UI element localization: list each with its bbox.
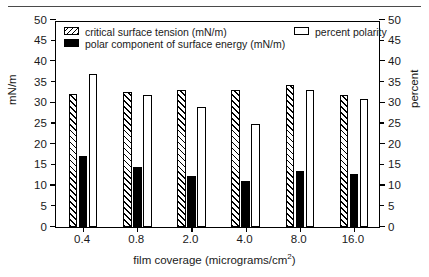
bar [360,99,369,227]
bar [197,107,206,227]
y-axis-left-tick [50,184,56,185]
y-axis-left-tick-label: 5 [41,201,48,213]
bar [231,90,240,227]
y-axis-right-tick-label: 15 [388,159,401,171]
bar [69,94,78,227]
y-axis-right-tick-label: 45 [388,35,401,47]
x-axis-tick [246,227,247,232]
y-axis-left-tick [50,60,56,61]
x-axis-tick [191,227,192,232]
x-axis-tick [354,227,355,232]
x-axis-title-main: film coverage (micrograms/cm [133,254,287,266]
y-axis-left-tick [50,143,56,144]
y-axis-right-tick [379,19,385,20]
legend-item-label: polar component of surface energy (mN/m) [85,38,285,50]
y-axis-left-tick [50,226,56,227]
x-axis-tick [300,227,301,232]
y-axis-right-title: percent [408,70,420,108]
x-axis-title: film coverage (micrograms/cm2) [0,252,429,266]
white-swatch-icon [294,27,309,35]
bar [177,90,186,227]
bar [306,90,315,227]
y-axis-left-tick-label: 20 [34,139,47,151]
x-axis-tick [83,227,84,232]
y-axis-right-tick-label: 30 [388,97,401,109]
bar [187,176,196,227]
bar [89,74,98,227]
bar [79,156,88,227]
y-axis-left-tick [51,164,56,165]
x-axis-tick-label: 16.0 [333,233,373,245]
y-axis-right-tick [379,102,385,103]
y-axis-right-tick [379,205,384,206]
y-axis-right-tick-label: 25 [388,118,401,130]
y-axis-left-tick [51,81,56,82]
y-axis-right-tick-label: 20 [388,139,401,151]
plot-area: 05101520253035404550 0510152025303540455… [55,21,380,228]
x-axis-tick-label: 8.0 [279,233,319,245]
y-axis-left-tick [51,205,56,206]
x-axis-title-tail: ) [292,254,296,266]
y-axis-right-tick-label: 50 [388,15,401,27]
y-axis-right-tick-label: 5 [388,201,395,213]
y-axis-left-tick-label: 35 [34,77,47,89]
legend-item-label: critical surface tension (mN/m) [85,26,227,38]
y-axis-right-tick [379,60,385,61]
bar [123,92,132,227]
y-axis-right-tick-label: 0 [388,222,395,234]
y-axis-left-title: mN/m [6,74,18,105]
black-swatch-icon [64,39,79,47]
y-axis-right-tick [379,40,384,41]
y-axis-right-tick-label: 35 [388,77,401,89]
bar [133,167,142,227]
y-axis-right-tick [379,184,385,185]
y-axis-left-tick [51,40,56,41]
bar [286,85,295,227]
y-axis-right-tick-label: 10 [388,180,401,192]
y-axis-right-tick [379,81,384,82]
y-axis-left-tick-label: 45 [34,35,47,47]
x-axis-tick-label: 0.8 [116,233,156,245]
y-axis-left-tick-label: 40 [34,56,47,68]
bar [350,174,359,227]
hatched-swatch-icon [64,27,79,35]
y-axis-right-tick [379,122,384,123]
chart-figure: mN/m percent film coverage (micrograms/c… [0,0,429,277]
y-axis-right-tick [379,143,385,144]
bar [241,181,250,227]
y-axis-left-tick [50,19,56,20]
y-axis-left-tick-label: 25 [34,118,47,130]
y-axis-right-tick-label: 40 [388,56,401,68]
y-axis-left-tick-label: 30 [34,97,47,109]
x-axis-tick-label: 2.0 [170,233,210,245]
x-axis-tick [137,227,138,232]
y-axis-right-tick [379,226,385,227]
y-axis-right-tick [379,164,384,165]
bar [143,95,152,227]
bar [340,95,349,227]
y-axis-left-tick-label: 10 [34,180,47,192]
x-axis-tick-label: 4.0 [225,233,265,245]
x-axis-tick-label: 0.4 [62,233,102,245]
y-axis-left-tick [50,102,56,103]
legend-item-label: percent polarity [315,26,387,38]
y-axis-left-tick-label: 15 [34,159,47,171]
bar [251,124,260,228]
bar [296,171,305,227]
top-rule-divider [8,6,421,7]
y-axis-left-tick [51,122,56,123]
y-axis-left-tick-label: 0 [41,222,48,234]
y-axis-left-tick-label: 50 [34,15,47,27]
